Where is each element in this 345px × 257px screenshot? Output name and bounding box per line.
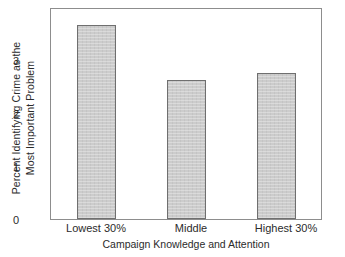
bar-lowest-30 [77,25,116,219]
y-tick-label-0: 0 [0,215,19,226]
y-tick-label-3: 3 [0,56,19,67]
bar-chart-figure: Percent Identifying Crime as the Most Im… [0,0,345,257]
x-axis-title: Campaign Knowledge and Attention [50,238,322,251]
plot-area [50,8,322,220]
x-tick-label-highest-30: Highest 30% [226,222,345,235]
y-axis-title-line-2: Most Important Problem [23,61,37,175]
bar-middle [167,80,206,219]
y-tick-label-2: 2 [0,109,19,120]
y-tick-label-1: 1 [0,162,19,173]
bar-highest-30 [257,73,296,219]
